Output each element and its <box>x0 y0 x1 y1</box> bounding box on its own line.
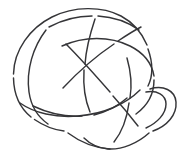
strand-inner-vertical-right-lower <box>114 103 129 142</box>
strand-bottom-left-rise <box>68 133 110 149</box>
strand-inner-vertical-left-lower <box>84 70 90 112</box>
strand-outer-top-arc <box>14 9 148 74</box>
strand-mid-upper-left-lobe <box>20 90 140 116</box>
knot-diagram-figure <box>0 0 184 162</box>
strand-inner-right-loop <box>136 80 154 114</box>
strand-upper-left-stub <box>49 16 92 27</box>
strand-upper-right-join <box>98 16 139 30</box>
strand-inner-vertical-left <box>85 19 95 64</box>
strand-center-diagonal-ne <box>63 44 114 88</box>
strand-right-small-loop <box>150 88 176 131</box>
strand-lower-left-chord <box>33 106 82 116</box>
strand-left-lower-tail <box>35 120 65 132</box>
strand-inner-right-upper <box>62 39 154 77</box>
knot-diagram-canvas <box>0 0 184 162</box>
strand-inner-vertical-right <box>127 58 131 98</box>
strand-right-loop-inner <box>146 92 166 128</box>
